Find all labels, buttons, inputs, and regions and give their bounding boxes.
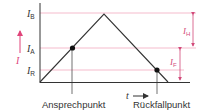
ir-label: IR bbox=[26, 65, 35, 77]
rueckfallpunkt-label: Rückfallpunkt bbox=[133, 99, 190, 110]
ansprechpunkt-dot bbox=[70, 45, 75, 50]
y-axis-symbol: I bbox=[15, 55, 20, 66]
ansprechpunkt-label: Ansprechpunkt bbox=[42, 99, 106, 110]
ih-label: IH bbox=[182, 26, 190, 37]
ia-label: IA bbox=[26, 43, 35, 55]
rueckfallpunkt-dot bbox=[154, 67, 159, 72]
if-label: IF bbox=[169, 57, 177, 68]
relay-characteristic-diagram: IH IF IB IA IR I t Ansprechpunkt Rückfal… bbox=[0, 0, 206, 112]
ib-label: IB bbox=[26, 8, 35, 20]
x-axis-symbol: t bbox=[126, 90, 129, 101]
